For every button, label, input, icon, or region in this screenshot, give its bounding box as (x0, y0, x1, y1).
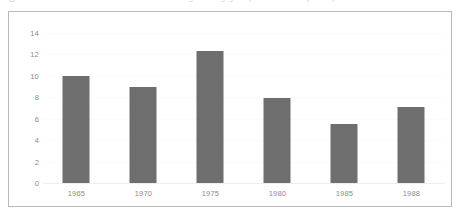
bar-group[interactable]: 1985 (311, 12, 378, 206)
y-axis-tick-label: 10 (17, 71, 39, 80)
x-axis-tick-label: 1970 (135, 189, 153, 198)
plot-area: 02468101214 196519701975198019851988 (9, 12, 451, 206)
bar-group[interactable]: 1965 (43, 12, 110, 206)
bar-group[interactable]: 1980 (244, 12, 311, 206)
x-axis-tick-label: 1975 (202, 189, 220, 198)
figure-caption: Figure: Number of recorded observations … (0, 0, 461, 5)
bar[interactable] (398, 107, 425, 183)
y-axis-tick-label: 2 (17, 157, 39, 166)
y-axis-tick-label: 12 (17, 50, 39, 59)
y-axis-tick-label: 0 (17, 179, 39, 188)
x-axis-tick-label: 1965 (68, 189, 86, 198)
bar[interactable] (331, 124, 358, 183)
x-axis-tick-label: 1985 (336, 189, 354, 198)
bar-group[interactable]: 1988 (378, 12, 445, 206)
bar[interactable] (264, 98, 291, 183)
chart-frame: 02468101214 196519701975198019851988 (8, 11, 452, 207)
x-axis-tick-label: 1980 (269, 189, 287, 198)
y-axis-tick-label: 8 (17, 93, 39, 102)
y-axis-tick-label: 14 (17, 29, 39, 38)
bar[interactable] (197, 51, 224, 183)
bar[interactable] (63, 76, 90, 183)
y-axis-tick-label: 6 (17, 114, 39, 123)
bar[interactable] (130, 87, 157, 183)
y-axis: 02468101214 (11, 12, 39, 206)
bar-group[interactable]: 1975 (177, 12, 244, 206)
x-axis-tick-label: 1988 (403, 189, 421, 198)
bars-layer: 196519701975198019851988 (43, 12, 445, 206)
bar-group[interactable]: 1970 (110, 12, 177, 206)
y-axis-tick-label: 4 (17, 136, 39, 145)
